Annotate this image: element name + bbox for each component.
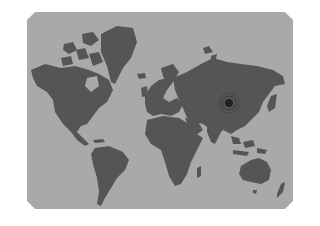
southeast-asia-islands bbox=[231, 136, 267, 156]
japan bbox=[267, 94, 277, 112]
australia bbox=[239, 158, 271, 184]
location-marker[interactable] bbox=[219, 93, 239, 113]
north-america bbox=[31, 64, 113, 146]
south-america bbox=[91, 146, 129, 206]
india bbox=[207, 124, 221, 144]
madagascar bbox=[197, 166, 201, 178]
arctic-russia-islands bbox=[203, 46, 213, 54]
iceland bbox=[137, 73, 146, 79]
new-zealand bbox=[277, 182, 285, 198]
canadian-arctic-islands bbox=[61, 32, 103, 66]
world-map bbox=[27, 12, 293, 209]
tasmania bbox=[253, 190, 257, 194]
caribbean-islands bbox=[93, 139, 105, 143]
greenland bbox=[101, 26, 137, 84]
british-isles bbox=[141, 86, 148, 97]
map-land-layer bbox=[27, 12, 293, 209]
